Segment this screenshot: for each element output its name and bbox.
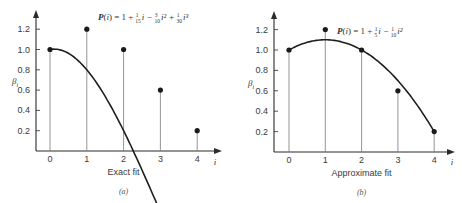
y-tick-label: 1.2: [17, 24, 30, 34]
y-tick-label: 0.6: [255, 86, 268, 96]
data-point: [121, 47, 126, 52]
y-tick-label: 0.8: [17, 65, 30, 75]
x-tick-label: 3: [158, 154, 163, 164]
data-point: [359, 47, 364, 52]
x-tick-label: 3: [395, 155, 400, 165]
data-point: [323, 27, 328, 32]
y-tick-label: 0.2: [17, 126, 30, 136]
formula-label: P(i) = 1 + 115i − 310i² + 130i³: [98, 12, 189, 24]
y-axis-label: βi: [11, 76, 18, 88]
data-point: [47, 47, 52, 52]
x-tick-label: 4: [432, 155, 437, 165]
x-tick-label: 1: [84, 154, 89, 164]
y-tick-label: 1.0: [255, 45, 268, 55]
y-tick-label: 0.4: [255, 106, 268, 116]
x-tick-label: 2: [121, 154, 126, 164]
x-axis-label: i: [214, 157, 217, 167]
x-axis-label: i: [451, 157, 454, 167]
x-tick-label: 0: [286, 155, 291, 165]
x-axis-arrow-icon: [214, 148, 222, 154]
x-tick-label: 4: [195, 154, 200, 164]
data-point: [84, 27, 89, 32]
x-tick-label: 2: [359, 155, 364, 165]
chart-caption: Exact fit: [108, 167, 141, 177]
y-axis-arrow-icon: [271, 11, 277, 19]
panel-label: (a): [119, 187, 129, 196]
panel-a: 0.20.40.60.81.01.201234βiiP(i) = 1 + 115…: [11, 10, 222, 203]
y-tick-label: 1.0: [17, 45, 30, 55]
x-tick-label: 1: [323, 155, 328, 165]
data-point: [195, 128, 200, 133]
formula-label: P(i) = 1 + 15i − 110i²: [337, 26, 403, 38]
data-point: [286, 47, 291, 52]
y-axis-arrow-icon: [33, 10, 39, 18]
data-point: [395, 88, 400, 93]
y-tick-label: 0.8: [255, 65, 268, 75]
y-axis-label: βi: [247, 78, 254, 90]
y-tick-label: 0.4: [17, 105, 30, 115]
panel-b: 0.20.40.60.81.01.201234βiiP(i) = 1 + 15i…: [247, 11, 455, 197]
panel-label: (b): [357, 188, 367, 197]
y-tick-label: 1.2: [255, 25, 268, 35]
x-tick-label: 0: [47, 154, 52, 164]
chart-caption: Approximate fit: [332, 168, 393, 178]
y-tick-label: 0.2: [255, 127, 268, 137]
data-point: [432, 129, 437, 134]
x-axis-arrow-icon: [447, 149, 455, 155]
y-tick-label: 0.6: [17, 85, 30, 95]
data-point: [158, 88, 163, 93]
figure: 0.20.40.60.81.01.201234βiiP(i) = 1 + 115…: [0, 0, 462, 203]
